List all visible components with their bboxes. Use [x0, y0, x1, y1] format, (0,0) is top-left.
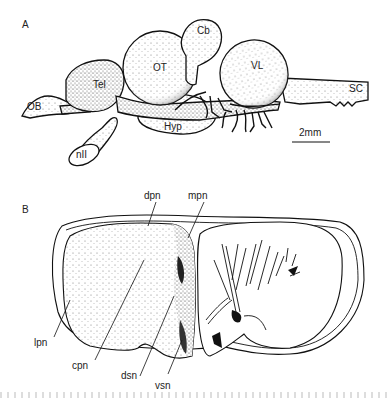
label-nii: nII — [76, 150, 87, 160]
label-hyp: Hyp — [164, 122, 182, 132]
label-vsn: vsn — [155, 381, 171, 391]
label-ot: OT — [153, 63, 167, 73]
label-lpn: lpn — [34, 338, 47, 348]
panel-a-letter: A — [22, 19, 29, 30]
label-cb: Cb — [197, 26, 210, 36]
label-vl: VL — [251, 61, 263, 71]
label-mpn: mpn — [188, 191, 207, 201]
label-tel: Tel — [93, 80, 106, 90]
panel-a-drawing — [22, 20, 368, 170]
label-dpn: dpn — [144, 191, 161, 201]
label-dsn: dsn — [121, 371, 137, 381]
label-ob: OB — [27, 102, 41, 112]
scale-bar-label: 2mm — [299, 128, 321, 138]
panel-b-drawing — [52, 215, 364, 358]
label-sc: SC — [349, 84, 363, 94]
scan-artifact-strip — [0, 392, 390, 398]
label-cpn: cpn — [72, 361, 88, 371]
panel-b-letter: B — [22, 204, 29, 215]
brain-figure: A B OB Tel OT Cb VL SC Hyp nII 2mm dpn m… — [0, 0, 390, 398]
